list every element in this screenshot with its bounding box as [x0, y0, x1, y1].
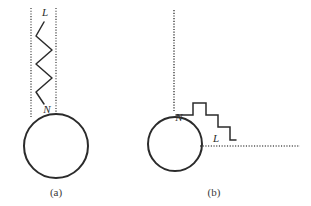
- figure-container: L N (a) N L (b): [0, 0, 311, 206]
- panel-a-caption: (a): [50, 186, 63, 199]
- panel-b-zigzag: [176, 103, 236, 140]
- panel-a: L N (a): [24, 6, 88, 199]
- panel-b-caption: (b): [208, 186, 221, 199]
- physics-diagram: L N (a) N L (b): [0, 0, 311, 206]
- panel-b-label-L: L: [212, 132, 219, 144]
- panel-a-label-N: N: [42, 103, 51, 115]
- panel-a-zigzag: [36, 22, 52, 104]
- panel-b: N L (b): [148, 10, 300, 199]
- panel-b-circle: [148, 117, 202, 171]
- panel-a-label-L: L: [41, 6, 48, 18]
- panel-a-circle: [24, 114, 88, 178]
- panel-b-label-N: N: [174, 111, 183, 123]
